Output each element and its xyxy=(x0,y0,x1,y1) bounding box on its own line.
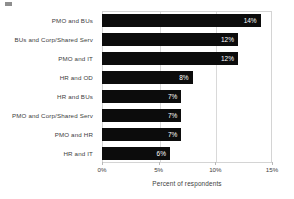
scan-artifact-mark xyxy=(5,2,12,6)
x-tick-mark xyxy=(159,162,160,165)
bar-row: 7% xyxy=(102,106,272,125)
x-axis-ticks: 0%5%10%15% xyxy=(102,164,272,174)
category-label: HR and BUs xyxy=(57,93,93,100)
category-axis-labels: PMO and BUsBUs and Corp/Shared ServPMO a… xyxy=(0,11,98,163)
category-label-row: HR and IT xyxy=(0,144,98,163)
x-tick-label: 15% xyxy=(266,166,278,173)
bar-row: 8% xyxy=(102,68,272,87)
category-label-row: HR and BUs xyxy=(0,87,98,106)
category-label: PMO and HR xyxy=(55,131,93,138)
bar-value-label: 7% xyxy=(102,90,181,103)
x-tick-label: 10% xyxy=(209,166,221,173)
bar-value-label: 8% xyxy=(102,71,193,84)
bar-value-label: 12% xyxy=(102,33,238,46)
bar-row: 12% xyxy=(102,49,272,68)
bar-value-label: 7% xyxy=(102,128,181,141)
category-label-row: HR and OD xyxy=(0,68,98,87)
bars-layer: 14%12%12%8%7%7%7%6% xyxy=(102,11,272,163)
x-tick-mark xyxy=(102,162,103,165)
bar-row: 7% xyxy=(102,125,272,144)
category-label-row: PMO and IT xyxy=(0,49,98,68)
bar-chart: PMO and BUsBUs and Corp/Shared ServPMO a… xyxy=(0,0,294,199)
category-label: PMO and IT xyxy=(58,55,93,62)
x-tick-label: 0% xyxy=(98,166,107,173)
bar-value-label: 7% xyxy=(102,109,181,122)
category-label-row: PMO and BUs xyxy=(0,11,98,30)
x-axis-title: Percent of respondents xyxy=(102,180,272,187)
bar-row: 12% xyxy=(102,30,272,49)
bar-row: 7% xyxy=(102,87,272,106)
category-label-row: BUs and Corp/Shared Serv xyxy=(0,30,98,49)
bar-value-label: 6% xyxy=(102,147,170,160)
x-tick-mark xyxy=(272,162,273,165)
x-tick-label: 5% xyxy=(154,166,163,173)
bar-row: 6% xyxy=(102,144,272,163)
category-label: PMO and BUs xyxy=(52,17,93,24)
category-label: HR and OD xyxy=(60,74,93,81)
bar-row: 14% xyxy=(102,11,272,30)
category-label: BUs and Corp/Shared Serv xyxy=(14,36,93,43)
category-label: HR and IT xyxy=(63,150,93,157)
bar-value-label: 14% xyxy=(102,14,261,27)
category-label-row: PMO and Corp/Shared Serv xyxy=(0,106,98,125)
category-label: PMO and Corp/Shared Serv xyxy=(12,112,93,119)
bar-value-label: 12% xyxy=(102,52,238,65)
category-label-row: PMO and HR xyxy=(0,125,98,144)
x-tick-mark xyxy=(215,162,216,165)
